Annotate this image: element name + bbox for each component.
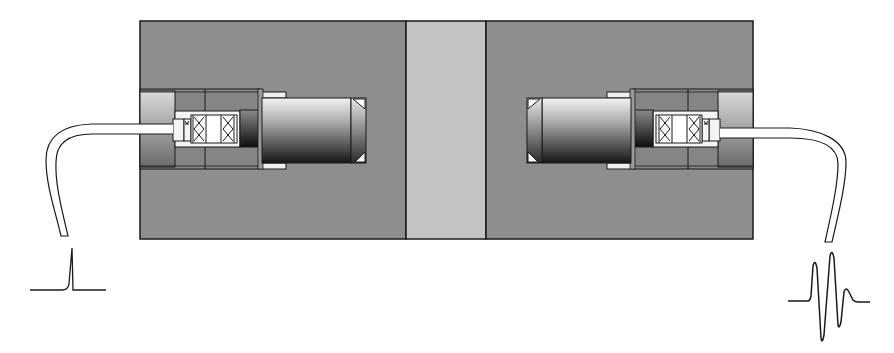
ultrasonic-diagram <box>0 0 894 353</box>
output-waveform <box>788 252 870 340</box>
specimen-strip <box>406 21 486 239</box>
receiver-transducer <box>527 89 753 169</box>
input-pulse-waveform <box>30 248 106 290</box>
transmitter-transducer <box>140 89 366 169</box>
